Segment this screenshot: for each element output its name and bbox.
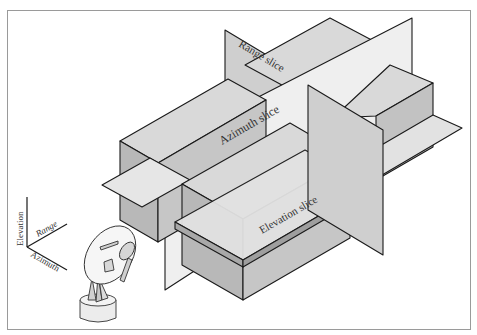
elevation-axis-label: Elevation (15, 211, 25, 246)
azimuth-axis-label: Azimuth (29, 249, 62, 274)
slice-diagram: Range slice Azimuth slice Elevation slic… (0, 0, 477, 335)
radar-dish-icon (74, 216, 147, 322)
